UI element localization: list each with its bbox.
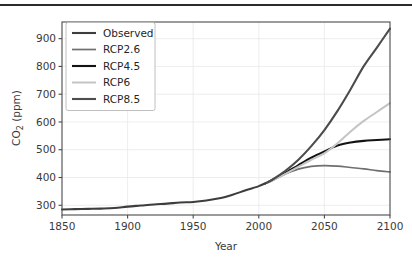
- y-tick-label: 400: [36, 171, 56, 183]
- y-tick-label: 300: [36, 199, 56, 211]
- x-tick-label: 2050: [311, 220, 338, 232]
- x-tick-label: 1950: [180, 220, 207, 232]
- y-tick-label: 800: [36, 60, 56, 72]
- x-tick-label: 2100: [377, 220, 404, 232]
- legend-label-rcp8-5: RCP8.5: [103, 93, 140, 105]
- x-tick-label: 2000: [245, 220, 272, 232]
- y-tick-label: 600: [36, 116, 56, 128]
- legend-label-observed: Observed: [103, 27, 154, 39]
- legend-label-rcp4-5: RCP4.5: [103, 60, 140, 72]
- x-tick-label: 1850: [49, 220, 76, 232]
- y-tick-label: 900: [36, 32, 56, 44]
- x-axis-ticks: 185019001950200020502100: [49, 215, 404, 232]
- chart-legend: ObservedRCP2.6RCP4.5RCP6RCP8.5: [66, 23, 155, 111]
- figure-root: 185019001950200020502100 300400500600700…: [0, 0, 412, 260]
- legend-label-rcp2-6: RCP2.6: [103, 43, 140, 55]
- y-tick-label: 700: [36, 88, 56, 100]
- legend-label-rcp6: RCP6: [103, 76, 130, 88]
- y-axis-title: CO2 (ppm): [10, 90, 25, 146]
- x-tick-label: 1900: [114, 220, 141, 232]
- co2-concentration-line-chart: 185019001950200020502100 300400500600700…: [0, 0, 412, 260]
- y-axis-ticks: 300400500600700800900: [36, 32, 62, 211]
- x-axis-title: Year: [214, 240, 238, 252]
- y-tick-label: 500: [36, 143, 56, 155]
